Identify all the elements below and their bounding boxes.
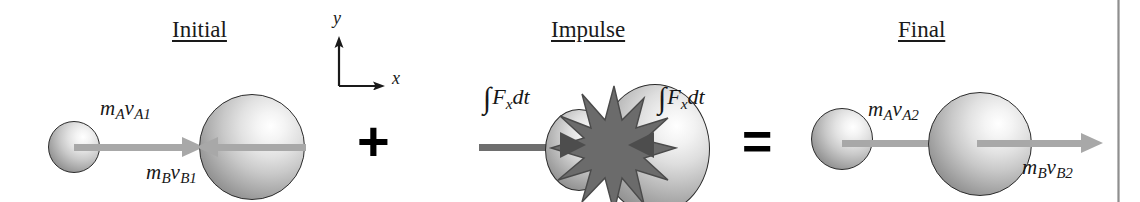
vector-arrowhead: [1081, 133, 1103, 153]
force-symbol-right: F: [667, 84, 680, 109]
mass-subscript-b-final: B: [1037, 165, 1046, 181]
velocity-subscript-b2: B2: [1056, 165, 1073, 181]
operator-plus: +: [357, 113, 390, 169]
mass-subscript-b: B: [161, 170, 170, 186]
velocity-symbol-b-final: v: [1047, 155, 1057, 179]
vector-shaft: [74, 144, 182, 151]
panel-title-initial: Initial: [172, 17, 227, 43]
axis-label-x: x: [392, 68, 400, 89]
panel-title-impulse: Impulse: [551, 17, 625, 43]
force-symbol-left: F: [492, 84, 505, 109]
velocity-subscript-a1: A1: [134, 106, 151, 122]
force-subscript-left: x: [506, 95, 513, 112]
dt-symbol-right: dt: [688, 84, 705, 109]
force-subscript-right: x: [681, 95, 688, 112]
velocity-symbol-a: v: [125, 96, 135, 120]
vector-shaft: [218, 144, 306, 151]
mass-symbol-b: m: [146, 160, 161, 184]
mass-symbol-b-final: m: [1022, 155, 1037, 179]
axis-indicator: [325, 32, 395, 94]
vector-arrowhead: [196, 137, 218, 157]
mass-subscript-a-final: A: [883, 107, 892, 123]
mass-subscript-a: A: [115, 106, 124, 122]
impulse-arrowhead-left: [560, 132, 586, 158]
label-impulse-left: ∫Fxdt: [483, 81, 530, 115]
dt-symbol-left: dt: [513, 84, 530, 109]
mass-symbol-a-final: m: [868, 97, 883, 121]
page-edge-rule: [1117, 0, 1120, 202]
vector-shaft: [842, 140, 932, 147]
mass-symbol-a: m: [100, 96, 115, 120]
axis-label-y: y: [333, 8, 341, 29]
label-ma-va2: mAvA2: [868, 97, 919, 124]
velocity-symbol-a-final: v: [893, 97, 903, 121]
axis-arrows-icon: [325, 32, 395, 90]
label-impulse-right: ∫Fxdt: [658, 81, 705, 115]
ball-a-final: [811, 108, 873, 170]
operator-equals: =: [742, 115, 772, 167]
vector-shaft: [977, 140, 1081, 147]
label-mb-vb2: mBvB2: [1022, 155, 1073, 182]
label-ma-va1: mAvA1: [100, 96, 151, 123]
velocity-subscript-a2: A2: [902, 107, 919, 123]
velocity-symbol-b: v: [171, 160, 181, 184]
figure-canvas: Initial mAvA1 mBvB1 y x + Impulse: [0, 0, 1140, 202]
panel-title-final: Final: [898, 17, 945, 43]
integral-sign-left: ∫: [483, 81, 492, 114]
label-mb-vb1: mBvB1: [146, 160, 197, 187]
velocity-subscript-b1: B1: [180, 170, 197, 186]
integral-sign-right: ∫: [658, 81, 667, 114]
impulse-arrowhead-right: [628, 132, 654, 158]
